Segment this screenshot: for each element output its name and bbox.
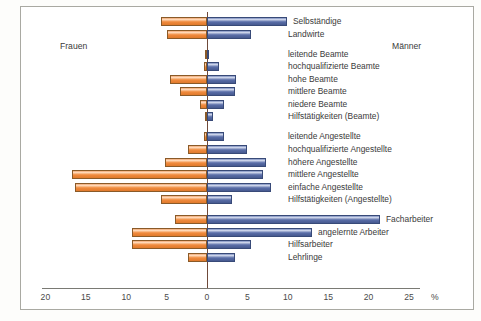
bar-row bbox=[0, 170, 481, 179]
bar-frauen bbox=[132, 228, 207, 237]
bar-row bbox=[0, 195, 481, 204]
bar-frauen bbox=[75, 183, 207, 192]
bar-row bbox=[0, 87, 481, 96]
category-label: Hilfstätigkeiten (Angestellte) bbox=[288, 194, 392, 204]
bar-maenner bbox=[207, 170, 263, 179]
bar-maenner bbox=[207, 183, 271, 192]
category-label: niedere Beamte bbox=[288, 99, 347, 109]
bar-row bbox=[0, 132, 481, 141]
unit-label: % bbox=[431, 292, 439, 302]
bar-frauen bbox=[170, 75, 207, 84]
x-tick-label: 10 bbox=[276, 292, 300, 302]
category-label: leitende Beamte bbox=[288, 49, 349, 59]
bar-maenner bbox=[207, 17, 287, 26]
category-label: leitende Angestellte bbox=[288, 131, 361, 141]
x-tick-label: 15 bbox=[316, 292, 340, 302]
bar-row bbox=[0, 62, 481, 71]
category-label: hohe Beamte bbox=[288, 74, 338, 84]
bar-row bbox=[0, 240, 481, 249]
bar-row bbox=[0, 30, 481, 39]
bar-row bbox=[0, 112, 481, 121]
bar-row bbox=[0, 50, 481, 59]
category-label: einfache Angestellte bbox=[288, 182, 363, 192]
category-label: angelernte Arbeiter bbox=[318, 227, 389, 237]
category-label: Landwirte bbox=[288, 29, 324, 39]
category-label: Facharbeiter bbox=[386, 214, 433, 224]
bar-frauen bbox=[165, 158, 207, 167]
bar-frauen bbox=[167, 30, 207, 39]
bar-maenner bbox=[207, 215, 380, 224]
category-label: Selbständige bbox=[293, 16, 341, 26]
bar-maenner bbox=[207, 145, 247, 154]
diverging-bar-chart: Frauen Männer SelbständigeLandwirteleite… bbox=[0, 0, 481, 321]
bar-frauen bbox=[180, 87, 207, 96]
bar-row bbox=[0, 100, 481, 109]
category-label: Lehrlinge bbox=[288, 252, 322, 262]
figure-page: u. Stat. Jb., 2002, S. 171, Graphik: Mus… bbox=[0, 0, 481, 321]
bar-frauen bbox=[188, 145, 207, 154]
bar-maenner bbox=[207, 132, 224, 141]
bar-maenner bbox=[207, 195, 232, 204]
bar-frauen bbox=[188, 253, 207, 262]
bar-maenner bbox=[207, 87, 235, 96]
bar-row bbox=[0, 145, 481, 154]
x-tick-label: 10 bbox=[114, 292, 138, 302]
bar-frauen bbox=[161, 195, 207, 204]
category-label: Hilfstätigkeiten (Beamte) bbox=[288, 111, 379, 121]
category-label: mittlere Beamte bbox=[288, 86, 347, 96]
category-label: Hilfsarbeiter bbox=[288, 239, 333, 249]
bar-maenner bbox=[207, 240, 251, 249]
x-tick-label: 15 bbox=[74, 292, 98, 302]
bar-maenner bbox=[207, 228, 312, 237]
bar-row bbox=[0, 17, 481, 26]
x-axis-baseline bbox=[42, 288, 420, 289]
bar-maenner bbox=[207, 62, 219, 71]
category-label: höhere Angestellte bbox=[288, 157, 357, 167]
x-tick-label: 5 bbox=[155, 292, 179, 302]
bar-maenner bbox=[207, 50, 209, 59]
bar-maenner bbox=[207, 30, 251, 39]
category-label: hochqualifizierte Beamte bbox=[288, 61, 380, 71]
bar-frauen bbox=[161, 17, 207, 26]
x-tick-label: 20 bbox=[33, 292, 57, 302]
bar-row bbox=[0, 75, 481, 84]
x-tick-label: 25 bbox=[397, 292, 421, 302]
bar-row bbox=[0, 228, 481, 237]
category-label: hochqualifizierte Angestellte bbox=[288, 144, 392, 154]
x-tick-label: 5 bbox=[235, 292, 259, 302]
bar-maenner bbox=[207, 75, 236, 84]
bar-frauen bbox=[72, 170, 207, 179]
bar-frauen bbox=[175, 215, 207, 224]
bar-row bbox=[0, 158, 481, 167]
category-label: mittlere Angestellte bbox=[288, 169, 359, 179]
bar-frauen bbox=[200, 100, 207, 109]
bar-maenner bbox=[207, 112, 213, 121]
bar-maenner bbox=[207, 158, 266, 167]
bar-maenner bbox=[207, 253, 235, 262]
bar-maenner bbox=[207, 100, 224, 109]
bar-row bbox=[0, 183, 481, 192]
bar-frauen bbox=[132, 240, 207, 249]
x-tick-label: 0 bbox=[195, 292, 219, 302]
x-tick-label: 20 bbox=[357, 292, 381, 302]
bar-row bbox=[0, 253, 481, 262]
